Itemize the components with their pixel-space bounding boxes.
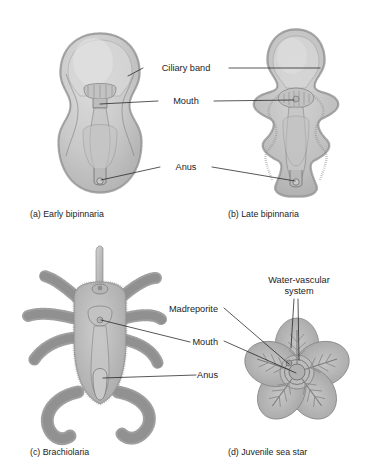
anus-opening-b <box>293 179 299 185</box>
label-water-vascular-system-line1: Water-vascular <box>268 275 329 285</box>
sea-star-development-figure: Ciliary band Mouth Anus Madreporite Mout… <box>0 0 375 475</box>
anus-opening-a <box>97 178 103 184</box>
label-water-vascular-system-line2: system <box>284 286 313 296</box>
label-mouth-bottom: Mouth <box>192 337 218 347</box>
caption-panel-c: (c) Brachiolaria <box>30 447 89 457</box>
mouth-opening-d <box>289 364 305 380</box>
panel-a-early-bipinnaria <box>59 34 141 192</box>
lobe-highlight-a <box>73 38 113 86</box>
caption-panel-b: (b) Late bipinnaria <box>228 209 299 219</box>
label-anus-bottom: Anus <box>197 370 218 380</box>
caption-panel-a: (a) Early bipinnaria <box>30 209 104 219</box>
label-anus-top: Anus <box>176 162 197 172</box>
label-madreporite: Madreporite <box>169 304 218 314</box>
label-mouth-top: Mouth <box>173 96 199 106</box>
caption-panel-d: (d) Juvenile sea star <box>228 447 307 457</box>
adhesive-papilla-c <box>98 286 103 291</box>
anus-structure-c <box>93 369 107 401</box>
mouth-opening-b <box>293 96 299 102</box>
label-ciliary-band: Ciliary band <box>162 63 211 73</box>
lobe-highlight-b <box>277 38 307 74</box>
madreporite-plate <box>286 360 292 366</box>
